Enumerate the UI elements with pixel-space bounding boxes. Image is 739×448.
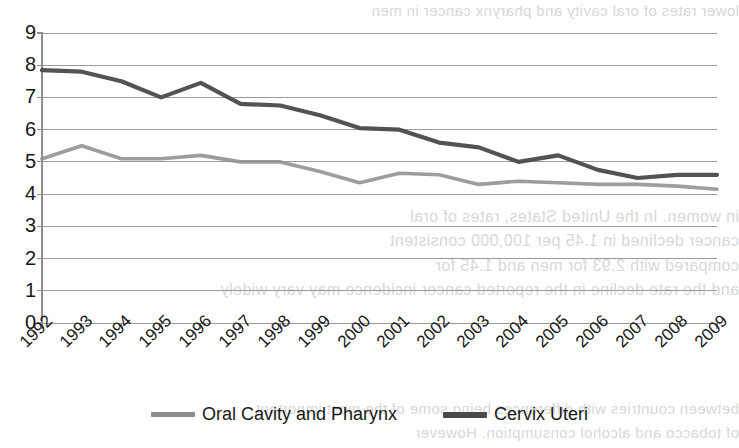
- series-line-oral-cavity-and-pharynx: [42, 146, 717, 190]
- legend-item-cervix-uteri[interactable]: Cervix Uteri: [443, 404, 588, 425]
- legend-swatch-icon: [151, 412, 195, 417]
- chart-legend: Oral Cavity and PharynxCervix Uteri: [0, 404, 739, 425]
- x-axis-labels: 1992199319941995199619971998199920002001…: [0, 330, 739, 400]
- legend-item-oral-cavity-and-pharynx[interactable]: Oral Cavity and Pharynx: [151, 404, 397, 425]
- legend-label: Oral Cavity and Pharynx: [202, 404, 397, 425]
- legend-label: Cervix Uteri: [494, 404, 588, 425]
- line-chart: 9876543210 19921993199419951996199719981…: [0, 0, 739, 448]
- legend-swatch-icon: [443, 412, 487, 418]
